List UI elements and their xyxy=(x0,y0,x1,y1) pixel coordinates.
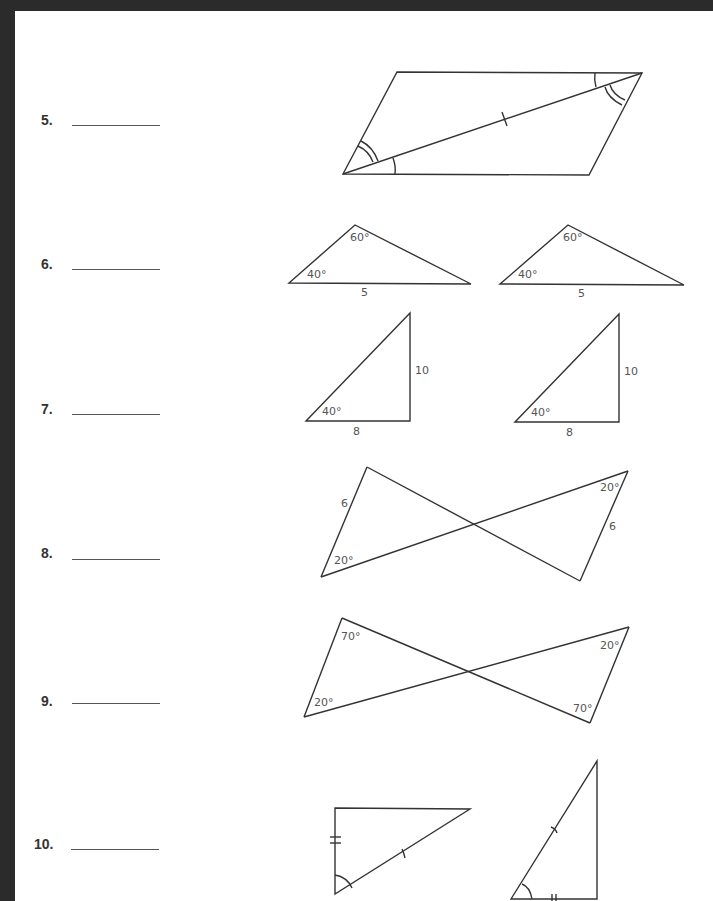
q6-right-bottom-angle: 40° xyxy=(518,268,538,281)
q7-right-height-label: 10 xyxy=(624,365,638,378)
q6-left-bottom-angle: 40° xyxy=(307,268,327,281)
q8-left-side-label: 6 xyxy=(341,497,348,510)
q8-right-side-label: 6 xyxy=(609,520,616,533)
q7-left-height-label: 10 xyxy=(415,364,429,377)
q9-top-right-angle: 20° xyxy=(600,639,620,652)
q7-left-angle: 40° xyxy=(322,405,342,418)
q9-bottom-left-angle: 20° xyxy=(314,696,334,709)
q8-left-angle: 20° xyxy=(334,554,354,567)
q9-top-left-angle: 70° xyxy=(341,630,361,643)
q6-right-base-label: 5 xyxy=(578,287,585,300)
q6-left-base-label: 5 xyxy=(361,286,368,299)
q7-right-angle: 40° xyxy=(531,406,551,419)
q10-triangle-right xyxy=(511,761,597,901)
q8-bowtie-figure xyxy=(321,467,628,581)
q6-right-top-angle: 60° xyxy=(563,231,583,244)
q6-left-top-angle: 60° xyxy=(350,231,370,244)
q5-parallelogram-figure xyxy=(343,72,642,175)
figures-canvas: 60° 40° 5 60° 40° 5 40° 8 10 40° 8 10 6 … xyxy=(0,0,713,901)
q7-left-base-label: 8 xyxy=(353,425,360,438)
q9-bottom-right-angle: 70° xyxy=(573,702,593,715)
q10-triangle-left xyxy=(330,808,470,894)
q7-right-base-label: 8 xyxy=(566,426,573,439)
q8-right-angle: 20° xyxy=(600,481,620,494)
